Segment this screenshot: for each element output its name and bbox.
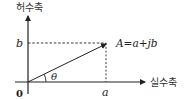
imaginary-axis-label: 허수축 — [16, 2, 43, 13]
vector-A — [28, 44, 106, 82]
point-A-label: A=a+jb — [115, 37, 158, 49]
angle-arc — [44, 74, 46, 82]
theta-label: θ — [51, 71, 57, 82]
b-label: b — [16, 37, 23, 50]
origin-label: 0 — [16, 88, 23, 99]
a-label: a — [102, 86, 109, 99]
real-axis-label: 실수축 — [150, 77, 177, 88]
complex-plane-diagram: 허수축 실수축 b a 0 θ A=a+jb — [0, 0, 194, 99]
